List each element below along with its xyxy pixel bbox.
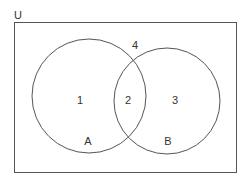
region-3-label: 3 — [172, 94, 178, 106]
set-b-label: B — [164, 135, 171, 147]
region-1-label: 1 — [77, 94, 83, 106]
set-a-label: A — [84, 135, 92, 147]
venn-diagram: U A B 1 2 3 4 — [0, 0, 250, 180]
venn-svg: U A B 1 2 3 4 — [0, 0, 250, 180]
region-4-label: 4 — [132, 39, 138, 51]
universe-label: U — [14, 9, 22, 21]
region-2-label: 2 — [125, 94, 131, 106]
